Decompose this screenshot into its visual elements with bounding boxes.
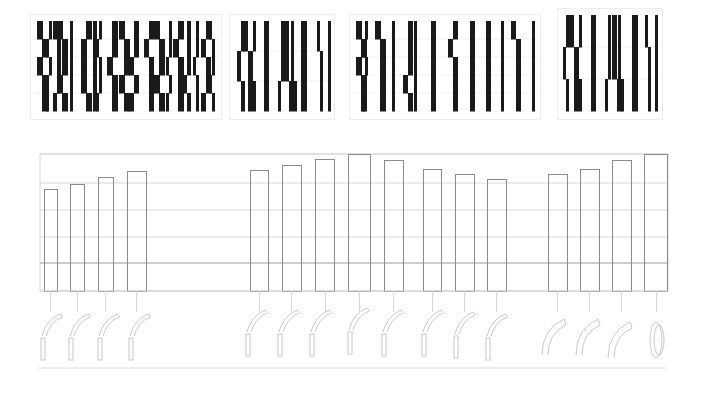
chart-bar (488, 180, 507, 292)
figure-sketch (454, 312, 476, 358)
chart-bar (349, 155, 371, 292)
chart-bar (128, 172, 147, 292)
figure-sketch (41, 314, 63, 360)
chart-bar (456, 175, 475, 292)
chart-bar (99, 178, 114, 292)
chart-bar (385, 161, 404, 292)
chart-bar (581, 170, 600, 292)
figure-sketch (486, 314, 508, 360)
figure-sketch (278, 310, 300, 356)
chart-bar (251, 171, 269, 292)
figure-sketch (129, 314, 151, 360)
figure-sketch (382, 310, 404, 356)
figure-sketch (348, 308, 370, 354)
figure-sketch (422, 310, 444, 356)
bar-chart-wireframe (0, 0, 704, 396)
figure-sketch (650, 322, 664, 358)
chart-bar (71, 185, 85, 292)
chart-bar (645, 155, 668, 292)
chart-bar (549, 175, 568, 292)
chart-bar (613, 161, 632, 292)
figure-sketch (310, 310, 332, 356)
figure-sketch (576, 319, 600, 355)
figure-sketch (98, 314, 120, 360)
figure-sketch (246, 310, 268, 356)
chart-bar (283, 166, 302, 292)
figure-sketch (69, 314, 91, 360)
figure-sketch (608, 322, 632, 358)
chart-bar (316, 160, 335, 292)
figure-sketch (542, 319, 566, 355)
chart-bar (424, 170, 442, 292)
chart-bar (45, 190, 58, 292)
